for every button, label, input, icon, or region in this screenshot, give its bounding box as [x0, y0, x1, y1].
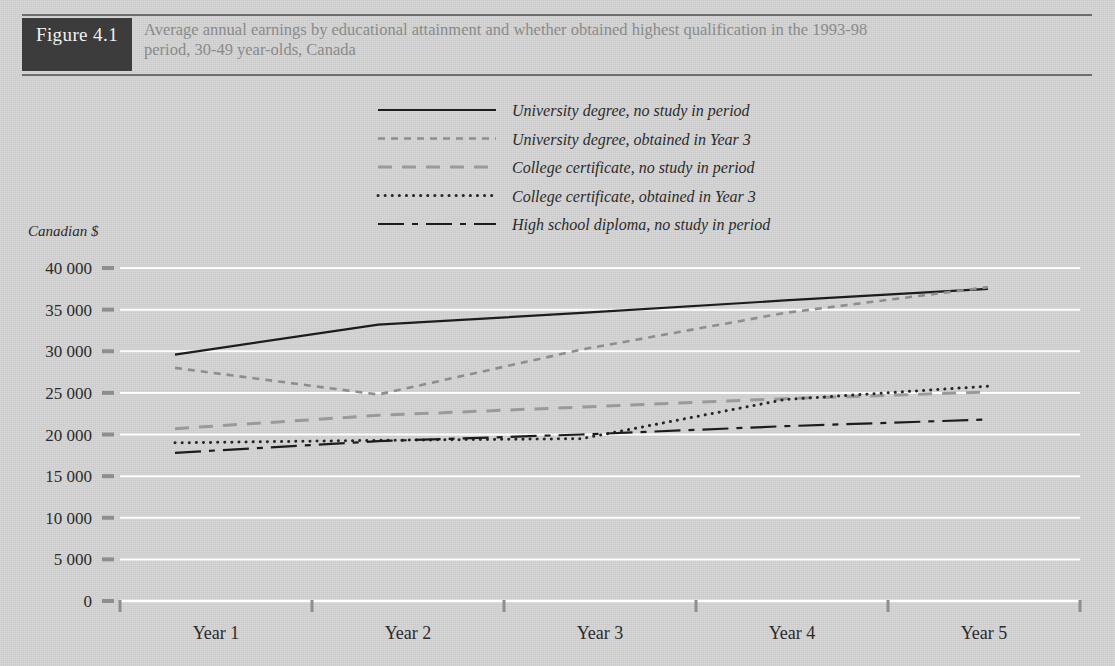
- data-series-group: [175, 287, 988, 453]
- y-axis-tick-label: 5 000: [54, 550, 92, 569]
- x-axis-tick-label: Year 1: [193, 623, 240, 643]
- header-rule-top: [22, 14, 1092, 16]
- y-axis-tick-label: 25 000: [45, 384, 92, 403]
- header-rule-bottom: [22, 74, 1092, 76]
- chart-legend: University degree, no study in periodUni…: [378, 102, 771, 234]
- series-line-5: [175, 420, 988, 453]
- x-axis-tick-label: Year 5: [961, 623, 1008, 643]
- series-line-2: [175, 287, 988, 394]
- figure-header: Figure 4.1 Average annual earnings by ed…: [22, 14, 1092, 76]
- legend-label-4: College certificate, obtained in Year 3: [512, 188, 756, 206]
- figure-title-line-2: period, 30-49 year-olds, Canada: [144, 40, 1074, 60]
- y-axis-tick-label: 40 000: [45, 259, 92, 278]
- x-axis-labels-group: Year 1Year 2Year 3Year 4Year 5: [193, 623, 1008, 643]
- y-axis-ticks-group: [102, 268, 114, 601]
- x-axis-group: [120, 600, 1080, 612]
- legend-label-2: University degree, obtained in Year 3: [512, 131, 751, 149]
- y-axis-tick-label: 0: [84, 592, 93, 611]
- figure-number-badge: Figure 4.1: [22, 18, 132, 71]
- x-axis-tick-label: Year 2: [385, 623, 432, 643]
- y-axis-title: Canadian $: [28, 223, 99, 239]
- y-axis-tick-label: 20 000: [45, 426, 92, 445]
- line-chart: 05 00010 00015 00020 00025 00030 00035 0…: [0, 84, 1115, 644]
- x-axis-tick-label: Year 3: [577, 623, 624, 643]
- legend-label-1: University degree, no study in period: [512, 102, 751, 120]
- legend-label-5: High school diploma, no study in period: [511, 216, 771, 234]
- y-axis-tick-label: 15 000: [45, 467, 92, 486]
- chart-plot-area: 05 00010 00015 00020 00025 00030 00035 0…: [0, 84, 1115, 644]
- y-axis-tick-label: 35 000: [45, 301, 92, 320]
- figure-title-line-1: Average annual earnings by educational a…: [144, 20, 1074, 40]
- series-line-1: [175, 289, 988, 355]
- figure-title: Average annual earnings by educational a…: [144, 20, 1074, 60]
- y-axis-tick-label: 10 000: [45, 509, 92, 528]
- legend-label-3: College certificate, no study in period: [512, 159, 756, 177]
- y-axis-tick-label: 30 000: [45, 342, 92, 361]
- y-axis-labels-group: 05 00010 00015 00020 00025 00030 00035 0…: [45, 259, 92, 611]
- x-axis-tick-label: Year 4: [769, 623, 816, 643]
